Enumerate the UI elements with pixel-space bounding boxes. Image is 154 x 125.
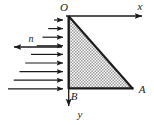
label-normal: n xyxy=(29,33,34,44)
label-vertex-b: B xyxy=(71,90,78,102)
pressure-arrow-group xyxy=(8,20,63,89)
label-x-axis: x xyxy=(137,0,143,12)
label-vertex-a: A xyxy=(138,83,146,95)
figure-container: O x y B A n xyxy=(0,0,154,125)
label-y-axis: y xyxy=(77,108,83,120)
diagram-svg: O x y B A n xyxy=(0,0,154,125)
label-origin: O xyxy=(60,1,68,13)
